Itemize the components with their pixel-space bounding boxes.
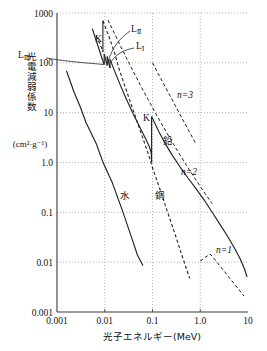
xtick-label-0.001: 0.001 <box>46 316 68 326</box>
y-axis-units: (cm²·g⁻¹) <box>13 139 48 149</box>
annotation-l1-label: LⅠ <box>136 41 145 52</box>
l1-leader-line <box>111 48 134 63</box>
x-axis-title: 光子エネルギー(MeV) <box>103 331 201 342</box>
callout-leaders <box>46 31 134 65</box>
annotation-n2-label: n=2 <box>181 167 197 177</box>
xtick-label-0.01: 0.01 <box>96 316 113 326</box>
annotation-l2-label: LⅡ <box>131 24 142 35</box>
ytick-label-1.0: 1.0 <box>41 158 53 168</box>
series-n1-reference <box>200 254 244 296</box>
annotation-k-lead: K <box>143 113 150 123</box>
n1-line <box>200 254 244 296</box>
ytick-label-1000: 1000 <box>34 9 53 19</box>
xtick-label-1.0: 1.0 <box>194 316 206 326</box>
chart-canvas: 1000 100 10 1.0 0.1 0.01 0.001 0.001 0.0… <box>0 0 267 351</box>
xtick-label-0.1: 0.1 <box>147 316 159 326</box>
annotation-k-upper: K <box>95 34 102 44</box>
ytick-label-0.1: 0.1 <box>41 208 53 218</box>
annotation-copper-label: 銅 <box>155 190 165 201</box>
l2-leader-line <box>108 31 130 61</box>
ytick-label-0.01: 0.01 <box>36 258 53 268</box>
series-lead <box>92 29 247 277</box>
annotation-lead-label: 鉛 <box>163 135 173 146</box>
l3-leader-line <box>46 58 104 65</box>
xtick-label-10: 10 <box>243 316 253 326</box>
annotation-l2: LⅡ <box>131 24 142 35</box>
annotation-n1-label: n=1 <box>216 245 232 255</box>
annotation-l1: LⅠ <box>136 41 145 52</box>
ytick-label-100: 100 <box>39 58 54 68</box>
ytick-label-10: 10 <box>44 108 54 118</box>
grid-lines <box>57 13 248 312</box>
annotation-water-label: 水 <box>120 190 130 201</box>
annotation-n3-label: n=3 <box>177 90 193 100</box>
x-tick-labels: 0.001 0.01 0.1 1.0 10 <box>46 316 253 326</box>
photoelectric-attenuation-chart: 1000 100 10 1.0 0.1 0.01 0.001 0.001 0.0… <box>0 0 267 351</box>
